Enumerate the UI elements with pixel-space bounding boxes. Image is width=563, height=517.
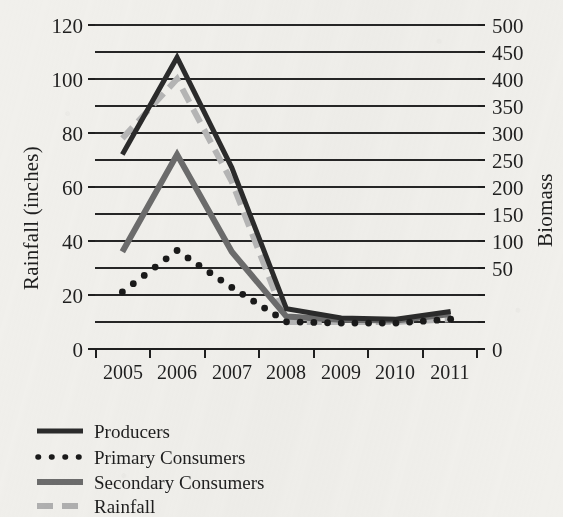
right-tick-150: 150	[492, 203, 524, 227]
right-tick-50: 50	[492, 257, 513, 281]
series-dot	[130, 280, 137, 287]
series-dot	[163, 255, 170, 262]
series-dot	[338, 320, 345, 327]
series-dot	[365, 320, 372, 327]
series-dot	[272, 312, 279, 319]
cat-label-2007: 2007	[212, 361, 252, 383]
left-tick-20: 20	[62, 284, 83, 308]
right-tick-400: 400	[492, 68, 524, 92]
series-dot	[324, 319, 331, 326]
series-dot	[447, 316, 454, 323]
left-axis-tick-labels: 120 100 80 60 40 20 0	[52, 14, 84, 362]
series-dot	[217, 277, 224, 284]
series-dot	[228, 284, 235, 291]
series-dot	[351, 320, 358, 327]
legend-label-producers: Producers	[94, 421, 170, 442]
cat-label-2011: 2011	[430, 361, 469, 383]
right-axis-ticks	[478, 25, 485, 349]
left-tick-80: 80	[62, 122, 83, 146]
legend-label-secondary-consumers: Secondary Consumers	[94, 472, 264, 493]
series-dot	[141, 272, 148, 279]
left-tick-120: 120	[52, 14, 84, 38]
series-dot	[250, 298, 257, 305]
cat-label-2008: 2008	[266, 361, 306, 383]
series-dot	[174, 247, 181, 254]
right-axis-tick-labels: 500 450 400 350 300 250 200 150 100 50 0	[492, 14, 524, 362]
series-dot	[207, 269, 214, 276]
right-tick-450: 450	[492, 41, 524, 65]
series-dot	[185, 254, 192, 261]
left-axis-title: Rainfall (inches)	[19, 146, 43, 290]
x-axis-category-labels: 2005 2006 2007 2008 2009 2010 2011	[103, 361, 470, 383]
left-tick-40: 40	[62, 230, 83, 254]
legend-item-secondary-consumers[interactable]: Secondary Consumers	[37, 472, 264, 493]
right-tick-250: 250	[492, 149, 524, 173]
cat-label-2010: 2010	[375, 361, 415, 383]
series-dot	[379, 320, 386, 327]
left-tick-0: 0	[73, 338, 84, 362]
series-dot	[283, 318, 290, 325]
right-tick-300: 300	[492, 122, 524, 146]
left-tick-60: 60	[62, 176, 83, 200]
legend-item-producers[interactable]: Producers	[37, 421, 170, 442]
left-tick-100: 100	[52, 68, 84, 92]
series-rainfall	[122, 79, 450, 322]
legend-label-primary-consumers: Primary Consumers	[94, 447, 245, 468]
right-tick-200: 200	[492, 176, 524, 200]
right-axis-title: Biomass	[533, 173, 557, 247]
series-dot	[393, 320, 400, 327]
x-axis-ticks	[96, 349, 477, 358]
series-dot	[119, 289, 126, 296]
legend-item-primary-consumers[interactable]: Primary Consumers	[38, 447, 245, 468]
legend-item-rainfall[interactable]: Rainfall	[37, 496, 155, 517]
series-dot	[297, 319, 304, 326]
cat-label-2009: 2009	[321, 361, 361, 383]
line-chart: 120 100 80 60 40 20 0 500 450 400 350 30…	[0, 0, 563, 517]
right-tick-350: 350	[492, 95, 524, 119]
cat-label-2005: 2005	[103, 361, 143, 383]
series-dot	[420, 318, 427, 325]
left-axis-ticks	[88, 25, 95, 349]
legend: Producers Primary Consumers Secondary Co…	[37, 421, 264, 517]
gridlines	[95, 25, 478, 322]
right-tick-500: 500	[492, 14, 524, 38]
right-tick-100: 100	[492, 230, 524, 254]
series-dot	[261, 305, 268, 312]
right-tick-0: 0	[492, 338, 503, 362]
cat-label-2006: 2006	[157, 361, 197, 383]
series-dot	[152, 264, 159, 271]
series-dot	[406, 319, 413, 326]
series-dot	[310, 319, 317, 326]
series-dot	[239, 291, 246, 298]
legend-label-rainfall: Rainfall	[94, 496, 155, 517]
series-dot	[434, 317, 441, 324]
series-layer	[119, 57, 454, 326]
series-dot	[196, 262, 203, 269]
